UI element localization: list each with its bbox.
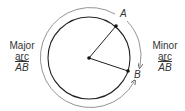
major-arc-line1: Major	[6, 40, 38, 51]
radius-b	[89, 58, 128, 71]
point-a	[114, 24, 118, 28]
label-b: B	[134, 69, 141, 80]
point-b	[126, 69, 130, 73]
minor-arc-arrow	[127, 21, 141, 66]
label-a: A	[120, 8, 127, 19]
major-arc-arrow	[40, 8, 134, 108]
minor-arc-name: AB	[158, 62, 171, 73]
radius-a	[89, 26, 116, 58]
minor-arc-line1: Minor	[149, 40, 181, 51]
center-point	[87, 56, 91, 60]
major-arc-name: AB	[15, 62, 28, 73]
minor-arc-label: Minor arc AB	[149, 40, 181, 73]
major-arc-label: Major arc AB	[6, 40, 38, 73]
